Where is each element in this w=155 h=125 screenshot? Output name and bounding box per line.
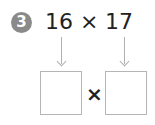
answer-box-left[interactable]	[40, 71, 82, 115]
factor-b: 17	[105, 9, 133, 35]
arrowhead-icon-left	[57, 57, 67, 67]
arrowhead-icon-right	[120, 57, 130, 67]
multiply-operator: ×	[80, 9, 98, 35]
answer-multiply-operator: ×	[86, 84, 103, 104]
problem-number-badge: 3	[11, 12, 32, 33]
factor-a: 16	[45, 9, 73, 35]
answer-box-right[interactable]	[105, 71, 147, 115]
